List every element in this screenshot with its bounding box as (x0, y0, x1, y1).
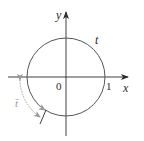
negative-arc-arrow (20, 80, 40, 117)
unit-circle-diagram: y x 0 1 t t̄ (0, 0, 144, 141)
terminal-point-tick (40, 110, 46, 124)
x-axis-label: x (122, 81, 129, 95)
y-axis-label: y (55, 8, 62, 22)
arc-label-t-bar: t̄ (15, 97, 19, 109)
unit-point-label: 1 (106, 80, 112, 92)
origin-label: 0 (56, 80, 62, 92)
arc-label-t: t (95, 33, 99, 47)
